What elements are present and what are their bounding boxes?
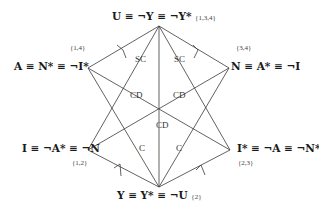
edge-top-lowerleft	[88, 26, 159, 150]
node-bottom-label: Y ≡ Y* ≡ ¬U	[117, 189, 188, 201]
edge-label-cd-left: CD	[130, 90, 143, 100]
node-upper-right: N ≡ A* ≡ ¬I	[231, 60, 300, 72]
edge-bottom-upperleft	[88, 68, 159, 187]
arrow-icon	[117, 45, 126, 58]
hexagon-diagram: U ≡ ¬Y ≡ ¬Y* {1,3,4} {1,4} A ≡ N* ≡ ¬I* …	[0, 0, 319, 212]
node-lower-right-tag: {2,3}	[238, 159, 253, 167]
node-lower-left-tag: {1,2}	[72, 159, 87, 167]
node-top-label: U ≡ ¬Y ≡ ¬Y*	[112, 10, 191, 22]
diagram-lines	[0, 0, 319, 212]
node-upper-left: A ≡ N* ≡ ¬I*	[14, 60, 89, 72]
edge-top-upperleft	[88, 26, 159, 68]
edge-label-c-left: C	[139, 143, 145, 153]
node-top-tag: {1,3,4}	[195, 14, 216, 22]
edge-label-c-right: C	[176, 143, 182, 153]
edge-label-cd-right: CD	[173, 90, 186, 100]
arrow-icon	[114, 164, 121, 176]
edge-label-cd-center: CD	[156, 120, 169, 130]
node-top: U ≡ ¬Y ≡ ¬Y* {1,3,4}	[112, 10, 216, 22]
node-bottom-tag: {2}	[191, 193, 201, 201]
node-bottom: Y ≡ Y* ≡ ¬U {2}	[117, 189, 202, 201]
edge-top-upperright	[159, 26, 229, 68]
edge-label-sc-left: SC	[135, 54, 146, 64]
edge-label-sc-right: SC	[174, 54, 185, 64]
node-lower-right: I* ≡ ¬A ≡ ¬N*	[237, 142, 319, 154]
node-upper-right-tag: {3,4}	[236, 44, 251, 52]
node-upper-left-tag: {1,4}	[70, 44, 85, 52]
node-lower-left: I ≡ ¬A* ≡ ¬N	[22, 142, 100, 154]
arrow-icon	[196, 165, 205, 175]
